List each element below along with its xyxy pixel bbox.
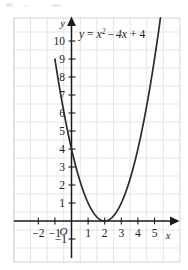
label-layer: 10 9 8 7 6 5 4 3 2 1 −1 −2 −1 1 2 3 4 5 … xyxy=(0,0,188,270)
y-tick-label-5: 5 xyxy=(59,125,65,137)
equation-exponent: 2 xyxy=(102,27,106,36)
x-axis-label: x xyxy=(165,230,171,241)
equation-annotation: y=x2−4x+4 xyxy=(78,27,145,41)
equation-lhs: y xyxy=(78,28,85,41)
y-tick-label-9: 9 xyxy=(59,53,65,65)
y-tick-label-1: 1 xyxy=(59,197,65,209)
y-tick-label-3: 3 xyxy=(59,161,65,173)
x-tick-label-5: 5 xyxy=(152,227,158,239)
y-axis-label: y xyxy=(59,18,65,29)
graph-screenshot: 10 9 8 7 6 5 4 3 2 1 −1 −2 −1 1 2 3 4 5 … xyxy=(0,0,188,270)
x-tick-label-1: 1 xyxy=(85,227,91,239)
x-tick-label-neg2: −2 xyxy=(32,227,44,239)
equation-term2: 4x xyxy=(116,28,128,40)
x-tick-label-3: 3 xyxy=(118,227,124,239)
x-tick-label-2: 2 xyxy=(102,227,108,239)
y-tick-label-4: 4 xyxy=(59,143,65,155)
origin-label: O xyxy=(60,225,68,237)
y-tick-label-8: 8 xyxy=(59,71,65,83)
x-tick-label-4: 4 xyxy=(135,227,141,239)
equation-term3: 4 xyxy=(139,28,145,40)
y-tick-label-7: 7 xyxy=(59,89,65,101)
y-tick-label-6: 6 xyxy=(59,107,65,119)
y-tick-label-10: 10 xyxy=(54,35,66,47)
y-tick-label-2: 2 xyxy=(59,179,65,191)
